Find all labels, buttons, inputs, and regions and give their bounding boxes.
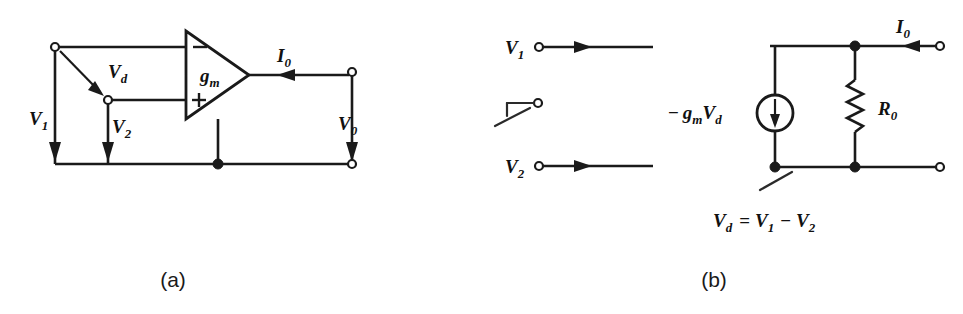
label-v2-panel-a: V2 — [112, 116, 132, 141]
label-vo-panel-a: V0 — [338, 113, 358, 138]
figure-root: gm V1 V2 Vd I0 V0 (a) — [0, 0, 963, 314]
label-v2-panel-b: V2 — [505, 156, 525, 181]
resistor-r0-symbol[interactable] — [847, 80, 863, 132]
v1-arrowhead-panel-b — [574, 41, 592, 53]
node-dot-amplifier-ground — [213, 159, 223, 169]
equation-vd: Vd=V1−V2 — [713, 210, 816, 235]
label-source-gain-panel-b: −gmVd — [668, 102, 722, 127]
output-bottom-terminal-panel-b[interactable] — [936, 163, 944, 171]
v2-arrowhead — [102, 142, 114, 162]
output-bottom-terminal[interactable] — [348, 160, 356, 168]
v2-terminal-panel-b[interactable] — [535, 162, 543, 170]
io-arrowhead-panel-b — [902, 40, 920, 52]
label-io-panel-b: I0 — [895, 16, 910, 41]
label-vd-panel-a: Vd — [108, 61, 128, 86]
label-io-panel-a: I0 — [276, 45, 291, 70]
v1-terminal-panel-b[interactable] — [535, 43, 543, 51]
v2-input-terminal[interactable] — [104, 96, 112, 104]
v2-arrowhead-panel-b — [574, 160, 592, 172]
label-v1-panel-a: V1 — [29, 108, 48, 133]
panel-a: gm V1 V2 Vd I0 V0 (a) — [29, 31, 358, 291]
node-dot-bottom-left-b — [770, 162, 780, 172]
io-arrowhead-panel-a — [277, 69, 295, 81]
scan-artifact-diagonal — [495, 108, 530, 126]
output-top-terminal[interactable] — [348, 68, 356, 76]
caption-panel-a: (a) — [160, 268, 186, 291]
circuit-diagram-svg: gm V1 V2 Vd I0 V0 (a) — [0, 0, 963, 314]
v1-input-terminal[interactable] — [51, 43, 59, 51]
output-top-terminal-panel-b[interactable] — [936, 42, 944, 50]
scan-artifact-diagonal-bottom — [760, 172, 792, 190]
node-dot-bottom-right-b — [850, 162, 860, 172]
panel-b: −gmVd R0 I0 V1 V2 Vd=V1−V2 (b) — [495, 16, 944, 291]
v1-arrowhead — [49, 142, 61, 162]
label-r0-panel-b: R0 — [877, 98, 898, 123]
node-dot-top-right-b — [850, 41, 860, 51]
label-v1-panel-b: V1 — [505, 37, 524, 62]
scan-artifact-open-circle — [534, 99, 542, 107]
caption-panel-b: (b) — [701, 268, 727, 291]
